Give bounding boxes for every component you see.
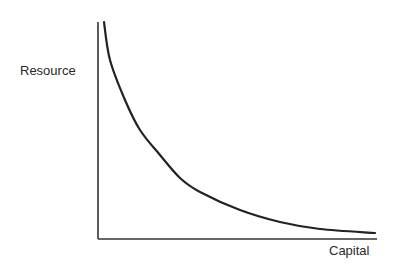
x-axis-label: Capital bbox=[329, 243, 369, 258]
chart-canvas bbox=[0, 0, 402, 276]
y-axis-label: Resource bbox=[20, 63, 76, 78]
isoquant-curve bbox=[104, 22, 375, 233]
